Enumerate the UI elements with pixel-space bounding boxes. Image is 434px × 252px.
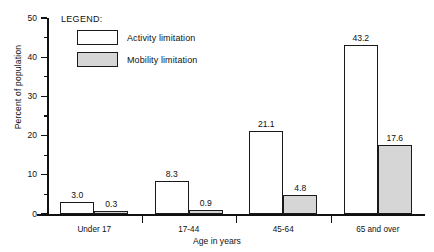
- bar-activity-limitation: [249, 131, 283, 214]
- bar-chart: Percent of population 01020304050 Under …: [0, 0, 434, 252]
- y-axis-tick-label: 0: [11, 209, 37, 219]
- y-axis-tick-label: 40: [11, 52, 37, 62]
- legend-swatch-gray-box: [77, 52, 118, 67]
- y-axis-tick-label: 50: [11, 13, 37, 23]
- legend-item-mobility-limitation: Mobility limitation: [77, 52, 197, 67]
- bar-mobility-limitation: [378, 145, 412, 214]
- y-axis-tick: [41, 174, 47, 175]
- y-axis-minor-tick: [44, 115, 48, 116]
- bar-value-label: 17.6: [369, 133, 421, 143]
- bar-activity-limitation: [344, 45, 378, 214]
- y-axis-tick-label: 10: [11, 169, 37, 179]
- legend-item-activity-limitation: Activity limitation: [77, 30, 197, 45]
- x-axis-category-label: Under 17: [47, 225, 142, 234]
- y-axis-minor-tick: [44, 194, 48, 195]
- x-axis-category-label: 45-64: [236, 225, 331, 234]
- bar-value-label: 43.2: [335, 33, 387, 43]
- y-axis-minor-tick: [44, 155, 48, 156]
- legend: LEGEND: Activity limitation Mobility lim…: [61, 14, 197, 74]
- bar-value-label: 0.9: [180, 198, 232, 208]
- bar-mobility-limitation: [94, 211, 128, 214]
- x-axis-group-separator: [331, 214, 332, 223]
- x-axis-category-label: 65 and over: [331, 225, 426, 234]
- y-axis-tick: [41, 17, 47, 18]
- bar-mobility-limitation: [283, 195, 317, 214]
- x-axis-category-label: 17-44: [142, 225, 237, 234]
- legend-title: LEGEND:: [61, 14, 197, 24]
- y-axis-tick: [41, 135, 47, 136]
- legend-swatch-white-box: [77, 30, 118, 45]
- y-axis-tick-label: 20: [11, 130, 37, 140]
- y-axis-line: [47, 18, 49, 215]
- bar-value-label: 4.8: [274, 183, 326, 193]
- y-axis-tick: [41, 57, 47, 58]
- bar-mobility-limitation: [189, 210, 223, 214]
- y-axis-minor-tick: [44, 76, 48, 77]
- x-axis-group-separator: [142, 214, 143, 223]
- y-axis-minor-tick: [44, 37, 48, 38]
- y-axis-tick: [41, 96, 47, 97]
- bar-value-label: 0.3: [85, 199, 137, 209]
- y-axis-tick-label: 30: [11, 91, 37, 101]
- x-axis-title: Age in years: [0, 236, 434, 246]
- bar-value-label: 8.3: [146, 169, 198, 179]
- x-axis-line: [37, 214, 425, 216]
- x-axis-group-separator: [236, 214, 237, 223]
- legend-label-activity-limitation: Activity limitation: [127, 33, 195, 43]
- bar-value-label: 21.1: [240, 119, 292, 129]
- legend-label-mobility-limitation: Mobility limitation: [127, 55, 197, 65]
